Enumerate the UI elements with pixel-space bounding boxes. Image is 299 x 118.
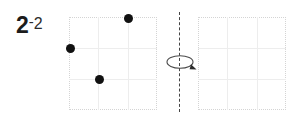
target-grid-frame	[198, 17, 286, 110]
source-grid-vline-2	[128, 17, 129, 110]
source-grid-vline-1	[98, 17, 99, 110]
target-grid-hline-2	[198, 79, 286, 80]
puzzle-label-main: 2	[16, 12, 29, 38]
source-grid-frame	[69, 17, 157, 110]
target-grid-hline-1	[198, 48, 286, 49]
source-grid-dot[interactable]	[124, 14, 133, 23]
puzzle-canvas: 2-2	[0, 0, 299, 118]
source-grid-hline-2	[69, 79, 157, 80]
source-grid-dot[interactable]	[95, 75, 104, 84]
source-grid-hline-1	[69, 48, 157, 49]
source-grid-dot[interactable]	[66, 44, 75, 53]
puzzle-label: 2-2	[16, 14, 43, 37]
target-grid	[198, 17, 286, 110]
puzzle-label-sub: 2	[34, 15, 43, 32]
rotation-arrow-icon	[165, 52, 199, 78]
target-grid-vline-2	[257, 17, 258, 110]
source-grid	[69, 17, 157, 110]
target-grid-vline-1	[227, 17, 228, 110]
